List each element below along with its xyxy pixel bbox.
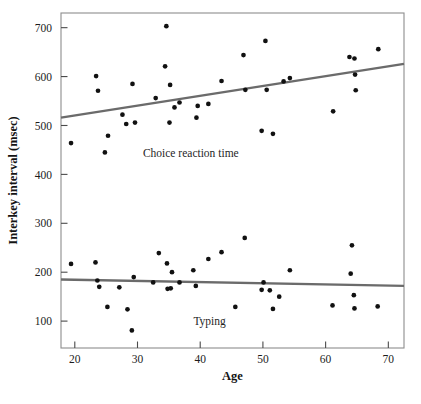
data-point	[131, 275, 136, 280]
data-point	[125, 307, 130, 312]
data-point	[259, 287, 264, 292]
data-point	[193, 284, 198, 289]
data-point	[130, 328, 135, 333]
series-annotations: Choice reaction timeTyping	[143, 147, 239, 328]
data-point	[191, 268, 196, 273]
data-point	[261, 280, 266, 285]
data-point	[117, 285, 122, 290]
data-point	[351, 293, 356, 298]
y-tick-label-700: 700	[35, 22, 53, 34]
data-point	[350, 243, 355, 248]
data-point	[195, 104, 200, 109]
trendline	[61, 64, 404, 118]
trendline	[61, 280, 404, 286]
data-point	[267, 288, 272, 293]
data-point	[163, 64, 168, 69]
data-point	[271, 131, 276, 136]
data-point	[168, 83, 173, 88]
y-tick-label-100: 100	[35, 315, 53, 327]
x-tick-label-20: 20	[69, 353, 81, 365]
data-point	[330, 303, 335, 308]
x-tick-label-60: 60	[320, 353, 332, 365]
data-point	[206, 102, 211, 107]
data-point	[177, 100, 182, 105]
data-point	[93, 260, 98, 265]
x-tick-label-30: 30	[132, 353, 144, 365]
data-point	[96, 88, 101, 93]
x-tick-label-40: 40	[194, 353, 206, 365]
figure-container: 203040506070 100200300400500600700 Choic…	[0, 0, 421, 404]
data-point	[106, 133, 111, 138]
data-point	[165, 261, 170, 266]
annotation-label: Typing	[193, 315, 226, 328]
x-axis-ticks	[75, 342, 389, 349]
y-tick-label-500: 500	[35, 120, 53, 132]
x-axis-tick-labels: 203040506070	[69, 353, 394, 365]
data-point	[130, 82, 135, 87]
data-point	[167, 120, 172, 125]
data-point	[95, 278, 100, 283]
data-point	[97, 285, 102, 290]
data-point	[69, 141, 74, 146]
y-tick-label-400: 400	[35, 169, 53, 181]
data-point	[120, 112, 125, 117]
data-point	[348, 271, 353, 276]
data-point	[242, 236, 247, 241]
data-point	[105, 305, 110, 310]
data-point	[170, 270, 175, 275]
data-point	[233, 305, 238, 310]
data-point	[241, 53, 246, 58]
data-point	[156, 251, 161, 256]
y-axis-title: Interkey interval (msec)	[6, 116, 20, 244]
data-point	[243, 87, 248, 92]
data-point	[376, 47, 381, 52]
data-point	[124, 122, 129, 127]
x-tick-label-70: 70	[383, 353, 395, 365]
annotation-label: Choice reaction time	[143, 147, 239, 159]
data-point	[352, 306, 357, 311]
trendlines	[61, 64, 404, 286]
data-point	[219, 79, 224, 84]
y-axis-ticks	[61, 28, 68, 321]
data-point	[103, 150, 108, 155]
y-tick-label-600: 600	[35, 71, 53, 83]
data-point	[94, 74, 99, 79]
data-point	[69, 262, 74, 267]
x-axis-title: Age	[222, 369, 243, 383]
data-point	[352, 56, 357, 61]
y-axis-tick-labels: 100200300400500600700	[35, 22, 53, 327]
data-point	[353, 88, 358, 93]
scatter-plot: 203040506070 100200300400500600700 Choic…	[0, 0, 421, 404]
data-point	[331, 109, 336, 114]
data-point	[347, 55, 352, 60]
data-point	[194, 115, 199, 120]
data-point	[259, 129, 264, 134]
plot-frame	[61, 13, 404, 348]
data-point	[263, 39, 268, 44]
series-choice-reaction-time-points	[69, 24, 381, 155]
data-point	[164, 24, 169, 29]
data-point	[288, 268, 293, 273]
data-point	[353, 72, 358, 77]
data-point	[168, 286, 173, 291]
y-tick-label-200: 200	[35, 266, 53, 278]
data-point	[177, 280, 182, 285]
y-tick-label-300: 300	[35, 217, 53, 229]
x-tick-label-50: 50	[257, 353, 269, 365]
data-point	[281, 79, 286, 84]
data-point	[375, 304, 380, 309]
data-point	[277, 294, 282, 299]
data-point	[264, 87, 269, 92]
data-point	[271, 307, 276, 312]
data-point	[219, 250, 224, 255]
data-point	[206, 257, 211, 262]
data-point	[288, 76, 293, 81]
data-point	[133, 120, 138, 125]
data-point	[151, 280, 156, 285]
data-point	[172, 105, 177, 110]
data-point	[153, 96, 158, 101]
